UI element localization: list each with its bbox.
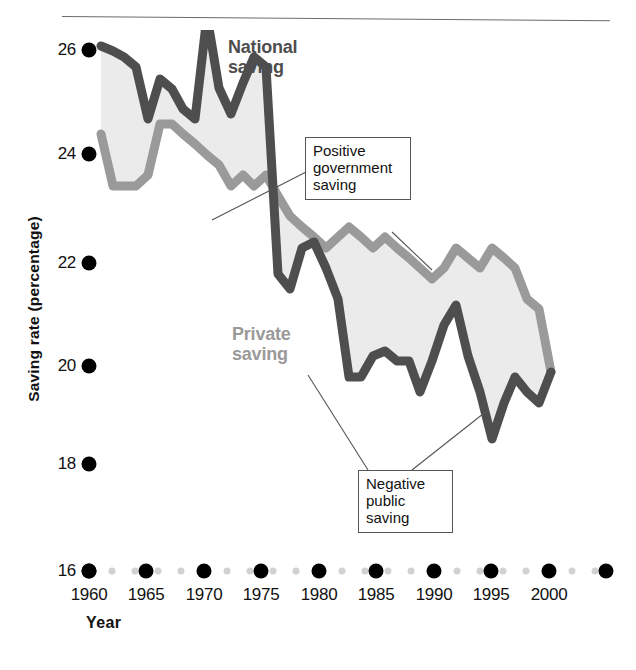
x-tick-label-1980: 1980 bbox=[289, 585, 349, 605]
x-tick-label-1965: 1965 bbox=[116, 585, 176, 605]
x-tick-label-1970: 1970 bbox=[174, 585, 234, 605]
y-tick-label-26: 26 bbox=[40, 40, 76, 60]
band-and-series bbox=[101, 16, 551, 439]
callout-positive-line3: saving bbox=[313, 177, 403, 194]
callout-negative-line1: Negative bbox=[366, 476, 445, 493]
series-label-private-line1: Private bbox=[232, 325, 291, 345]
callout-positive-line1: Positive bbox=[313, 143, 403, 160]
saving-gap-band bbox=[101, 16, 551, 439]
x-tick-label-1990: 1990 bbox=[404, 585, 464, 605]
series-label-private-saving: Private saving bbox=[232, 325, 291, 365]
callout-positive-line2: government bbox=[313, 160, 403, 177]
x-tick-label-1985: 1985 bbox=[346, 585, 406, 605]
y-tick-label-16: 16 bbox=[40, 561, 76, 581]
saving-rate-chart bbox=[0, 0, 636, 670]
y-tick-label-22: 22 bbox=[40, 253, 76, 273]
series-label-national-line2: saving bbox=[228, 58, 297, 78]
x-tick-label-1960: 1960 bbox=[59, 585, 119, 605]
series-label-private-line2: saving bbox=[232, 345, 291, 365]
callout-negative-public-saving: Negative public saving bbox=[358, 470, 453, 533]
y-tick-label-20: 20 bbox=[40, 356, 76, 376]
y-tick-label-24: 24 bbox=[40, 144, 76, 164]
y-tick-label-18: 18 bbox=[40, 454, 76, 474]
x-tick-label-1975: 1975 bbox=[231, 585, 291, 605]
x-tick-label-2000: 2000 bbox=[519, 585, 579, 605]
x-axis-minor-dots bbox=[109, 568, 599, 575]
callout-positive-government-saving: Positive government saving bbox=[305, 137, 411, 200]
callout-negative-line3: saving bbox=[366, 510, 445, 527]
x-tick-label-1995: 1995 bbox=[461, 585, 521, 605]
series-label-national-line1: National bbox=[228, 38, 297, 58]
y-axis-tick-dots bbox=[82, 43, 97, 579]
series-label-national-saving: National saving bbox=[228, 38, 297, 78]
callout-negative-line2: public bbox=[366, 493, 445, 510]
